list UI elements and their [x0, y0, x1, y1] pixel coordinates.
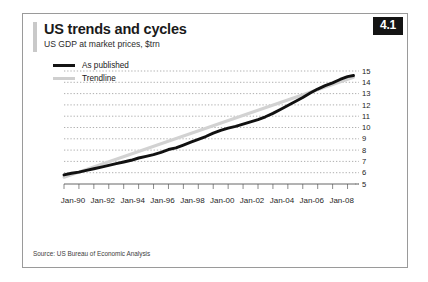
y-axis-labels-group: 56789101112131415 [362, 67, 370, 189]
figure-number-badge: 4.1 [373, 17, 403, 35]
y-tick-label: 9 [362, 134, 366, 143]
figure-frame: US trends and cycles US GDP at market pr… [22, 13, 408, 268]
source-note: Source: US Bureau of Economic Analysis [33, 250, 150, 257]
y-tick-label: 5 [362, 180, 366, 189]
y-tick-label: 15 [362, 67, 370, 76]
y-tick-label: 12 [362, 101, 370, 110]
title-accent-bar [33, 22, 37, 52]
x-tick-label: Jan-96 [150, 196, 175, 205]
chart-svg: 56789101112131415 Jan-90Jan-92Jan-94Jan-… [40, 49, 385, 224]
x-tick-label: Jan-06 [300, 196, 325, 205]
page-title: US trends and cycles [44, 22, 187, 37]
y-tick-label: 6 [362, 168, 366, 177]
y-tick-label: 11 [362, 112, 370, 121]
y-tick-label: 14 [362, 78, 370, 87]
x-tick-label: Jan-02 [240, 196, 265, 205]
x-tick-label: Jan-00 [210, 196, 235, 205]
title-text-group: US trends and cycles US GDP at market pr… [44, 22, 187, 50]
figure-header: US trends and cycles US GDP at market pr… [33, 22, 187, 52]
y-tick-label: 10 [362, 123, 370, 132]
y-tick-label: 13 [362, 89, 370, 98]
y-tick-label: 7 [362, 157, 366, 166]
x-tick-label: Jan-08 [329, 196, 354, 205]
x-axis-ticks-group [64, 184, 348, 189]
plot-area: 56789101112131415 Jan-90Jan-92Jan-94Jan-… [40, 49, 385, 224]
series-line-as-published [64, 76, 354, 175]
x-tick-label: Jan-92 [91, 196, 116, 205]
x-tick-label: Jan-90 [61, 196, 86, 205]
x-tick-label: Jan-04 [270, 196, 295, 205]
y-tick-label: 8 [362, 146, 366, 155]
x-axis-labels-group: Jan-90Jan-92Jan-94Jan-96Jan-98Jan-00Jan-… [61, 196, 355, 205]
x-tick-label: Jan-98 [180, 196, 205, 205]
x-tick-label: Jan-94 [120, 196, 145, 205]
